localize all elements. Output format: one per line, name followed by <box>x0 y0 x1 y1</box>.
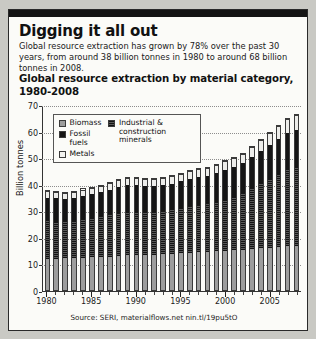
y-tick-label: 50 <box>28 155 38 164</box>
bar-segment <box>161 178 165 185</box>
bar-1987[interactable] <box>107 182 113 291</box>
x-tick-mark <box>163 292 164 295</box>
source-credit: Source: SERI, materialflows.net nin.tl/1… <box>9 313 299 322</box>
bar-segment <box>152 213 156 255</box>
bar-segment <box>108 215 112 256</box>
legend-column-left: BiomassFossil fuelsMetals <box>59 119 101 158</box>
bar-segment <box>126 255 130 290</box>
bar-1997[interactable] <box>196 168 202 291</box>
bar-1995[interactable] <box>178 173 184 291</box>
bar-segment <box>259 248 263 290</box>
bar-1994[interactable] <box>169 175 175 291</box>
bar-segment <box>259 140 263 151</box>
bar-segment <box>170 184 174 210</box>
bar-1986[interactable] <box>98 185 104 292</box>
bar-segment <box>206 204 210 252</box>
y-tick-mark <box>39 212 42 213</box>
bar-segment <box>170 176 174 184</box>
legend-swatch-icon <box>108 120 115 127</box>
standfirst-text: Global resource extraction has grown by … <box>19 41 301 75</box>
bar-1985[interactable] <box>89 187 95 291</box>
bar-segment <box>135 255 139 290</box>
bar-segment <box>126 185 130 212</box>
bar-2000[interactable] <box>222 160 228 291</box>
bar-segment <box>232 158 236 167</box>
legend-item[interactable]: Metals <box>59 150 101 159</box>
bar-2002[interactable] <box>240 153 246 291</box>
bar-1982[interactable] <box>62 192 68 291</box>
x-tick-mark <box>118 292 119 295</box>
bar-1999[interactable] <box>214 164 220 291</box>
bar-segment <box>99 257 103 290</box>
y-axis-label: Billion tonnes <box>15 140 25 196</box>
bar-segment <box>108 183 112 190</box>
legend-item[interactable]: Biomass <box>59 119 101 128</box>
bar-1980[interactable] <box>45 190 51 291</box>
bar-1992[interactable] <box>151 178 157 291</box>
bar-segment <box>295 130 299 167</box>
bar-segment <box>90 257 94 290</box>
bar-slot <box>256 106 265 291</box>
bar-2005[interactable] <box>267 132 273 291</box>
y-tick-mark <box>39 265 42 266</box>
bar-segment <box>63 222 67 259</box>
bar-segment <box>143 213 147 255</box>
bar-1990[interactable] <box>134 177 140 291</box>
bar-segment <box>268 248 272 290</box>
bar-segment <box>99 186 103 193</box>
bar-2006[interactable] <box>276 125 282 291</box>
bar-1983[interactable] <box>71 191 77 291</box>
x-tick-label: 2000 <box>215 297 235 306</box>
bar-segment <box>143 186 147 212</box>
x-tick-mark <box>198 292 199 295</box>
bar-segment <box>170 210 174 254</box>
legend-item[interactable]: Industrial & construction minerals <box>108 119 195 145</box>
bar-2004[interactable] <box>258 139 264 291</box>
bar-1998[interactable] <box>205 167 211 291</box>
bar-segment <box>232 197 236 250</box>
bar-1991[interactable] <box>142 178 148 291</box>
bar-slot <box>212 106 221 291</box>
bar-slot <box>292 106 301 291</box>
legend-swatch-icon <box>59 151 66 158</box>
top-rule <box>9 10 307 17</box>
bar-segment <box>241 250 245 290</box>
bar-segment <box>223 251 227 290</box>
bar-segment <box>223 161 227 170</box>
bar-segment <box>54 259 58 290</box>
bar-segment <box>152 255 156 290</box>
bar-2001[interactable] <box>231 157 237 291</box>
bar-segment <box>108 257 112 290</box>
bar-slot <box>203 106 212 291</box>
x-tick-mark <box>82 292 83 295</box>
bar-segment <box>143 255 147 290</box>
bar-segment <box>54 198 58 221</box>
bar-1989[interactable] <box>125 177 131 291</box>
bar-1988[interactable] <box>116 179 122 291</box>
legend-swatch-icon <box>59 131 66 138</box>
bar-2003[interactable] <box>249 146 255 291</box>
bar-segment <box>117 213 121 256</box>
bar-1981[interactable] <box>53 191 59 291</box>
bar-1996[interactable] <box>187 170 193 291</box>
y-tick-mark <box>39 159 42 160</box>
bar-segment <box>197 169 201 177</box>
x-tick-mark <box>73 292 74 295</box>
bar-2008[interactable] <box>294 114 300 291</box>
bar-segment <box>179 253 183 290</box>
bar-1993[interactable] <box>160 177 166 291</box>
bar-segment <box>90 194 94 218</box>
bar-2007[interactable] <box>285 118 291 291</box>
bar-segment <box>81 220 85 258</box>
bar-slot <box>247 106 256 291</box>
bar-segment <box>161 185 165 211</box>
bar-segment <box>286 246 290 290</box>
x-tick-label: 1990 <box>126 297 146 306</box>
x-tick-mark <box>127 292 128 295</box>
bar-segment <box>232 167 236 197</box>
bar-segment <box>170 254 174 290</box>
legend-item[interactable]: Fossil fuels <box>59 130 101 147</box>
legend-label: Biomass <box>70 119 102 128</box>
bar-1984[interactable] <box>80 188 86 291</box>
bar-segment <box>241 194 245 250</box>
